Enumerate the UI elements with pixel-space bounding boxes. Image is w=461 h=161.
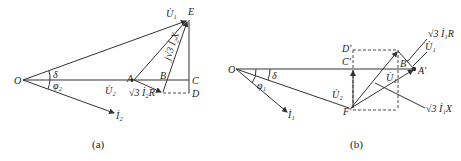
label-delta: δ [53,69,58,80]
label-i2: İ₂ [115,110,123,121]
label-d: D [191,88,200,99]
label-u1-top: U̇₁ [425,41,436,52]
diagram-b: O D' C' B' A' F' U̇₂ U̇₁ U̇₁ √3 İ₁R √3 İ… [228,28,454,151]
label-phi2: φ₂ [53,80,63,91]
label-o: O [14,75,21,86]
label-u1-inner: U̇₁ [386,72,397,83]
label-phi1: φ₁ [257,80,266,91]
label-c-prime: C' [342,56,352,67]
u1-leader [413,52,427,66]
caption-b: (b) [350,138,363,151]
label-d-prime: D' [341,43,352,54]
i2-vector [23,80,114,113]
label-a: A [126,73,134,84]
caption-a: (a) [92,138,105,151]
point-a-prime [412,67,416,71]
r-leader [407,39,427,62]
label-x-drop: √3 İ₁X [426,103,453,114]
label-o: O [228,64,235,75]
label-b: B [160,70,166,81]
delta-arc [268,69,270,80]
label-e: E [187,6,194,17]
x-leader [375,83,425,108]
label-r-drop: √3 İ₂R [129,87,155,98]
label-a-prime: A' [417,65,427,76]
label-u1: U̇₁ [166,8,177,19]
phi1-arc [252,69,256,83]
label-b-prime: B' [400,58,409,69]
diagram-a: O E U̇₁ A B C D U̇₂ İ₂ δ φ₂ √3 İ₂R j√3 İ… [14,6,200,151]
phasor-diagrams: O E U̇₁ A B C D U̇₂ İ₂ δ φ₂ √3 İ₂R j√3 İ… [0,0,461,161]
label-u2: U̇₂ [332,89,343,100]
u1-inner-vector [351,70,413,108]
label-r-drop: √3 İ₁R [428,28,454,39]
delta-arc [49,71,50,80]
phi2-arc [48,80,50,89]
label-delta: δ [272,70,277,81]
label-c: C [192,75,199,86]
label-i1: İ₁ [287,109,295,120]
label-u2: U̇₂ [105,85,116,96]
label-f-prime: F' [342,106,352,117]
